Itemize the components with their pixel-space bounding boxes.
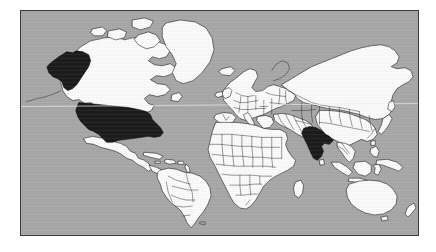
island-lesser-antilles xyxy=(185,164,190,172)
alaska-aleutian-chain xyxy=(26,91,61,102)
island-ellesmere xyxy=(132,18,153,30)
island-banks xyxy=(91,27,107,36)
island-iceland xyxy=(219,67,235,76)
continent-africa xyxy=(208,122,296,209)
region-north-america xyxy=(26,18,235,176)
country-ireland xyxy=(215,92,223,98)
island-cuba xyxy=(143,152,163,159)
island-sumatra xyxy=(331,162,352,176)
world-map xyxy=(20,10,419,236)
island-hispaniola xyxy=(164,159,176,164)
figure-container xyxy=(0,0,436,252)
continent-europe-landmass xyxy=(222,69,296,121)
island-puerto-rico xyxy=(178,161,184,164)
island-philippines xyxy=(370,146,379,157)
country-mexico xyxy=(84,136,153,171)
island-tasmania xyxy=(381,216,388,221)
scandinavia-outline xyxy=(272,61,290,81)
island-newfoundland xyxy=(171,93,182,102)
country-new-zealand xyxy=(405,203,416,217)
region-southeast-asia-mainland xyxy=(337,142,355,162)
continent-south-america xyxy=(157,168,211,228)
region-south-america xyxy=(157,168,211,228)
island-jamaica xyxy=(155,161,160,163)
island-victoria xyxy=(108,29,127,40)
island-falklands xyxy=(200,222,205,225)
country-australia xyxy=(346,180,397,215)
island-taiwan xyxy=(371,140,375,145)
island-madagascar xyxy=(294,180,304,198)
country-sri-lanka xyxy=(319,159,324,165)
island-sulawesi xyxy=(373,164,381,175)
map-canvas xyxy=(21,11,418,236)
island-borneo xyxy=(353,161,371,176)
region-africa xyxy=(208,122,304,209)
